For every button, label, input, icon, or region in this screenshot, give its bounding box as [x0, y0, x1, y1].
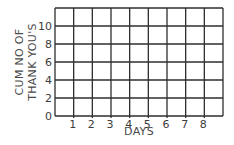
y-axis-label-line-2: THANK YOU'S: [26, 23, 39, 102]
y-axis-ticks: 0246810: [38, 20, 52, 123]
blank-grid-chart: 0246810 12345678 CUM NO OF THANK YOU'S D…: [0, 0, 234, 145]
chart-grid: [55, 8, 223, 118]
x-tick-label: 1: [69, 118, 76, 131]
x-tick-label: 7: [181, 118, 188, 131]
x-axis-label: DAYS: [124, 125, 154, 138]
x-tick-label: 8: [200, 118, 207, 131]
x-tick-label: 3: [107, 118, 114, 131]
x-tick-label: 2: [88, 118, 95, 131]
x-tick-label: 6: [163, 118, 170, 131]
y-tick-label: 6: [45, 56, 52, 69]
y-tick-label: 4: [45, 74, 52, 87]
y-tick-label: 2: [45, 92, 52, 105]
y-tick-label: 8: [45, 38, 52, 51]
y-tick-label: 0: [45, 110, 52, 123]
y-axis-label-line-1: CUM NO OF: [13, 29, 26, 96]
y-tick-label: 10: [38, 20, 52, 33]
